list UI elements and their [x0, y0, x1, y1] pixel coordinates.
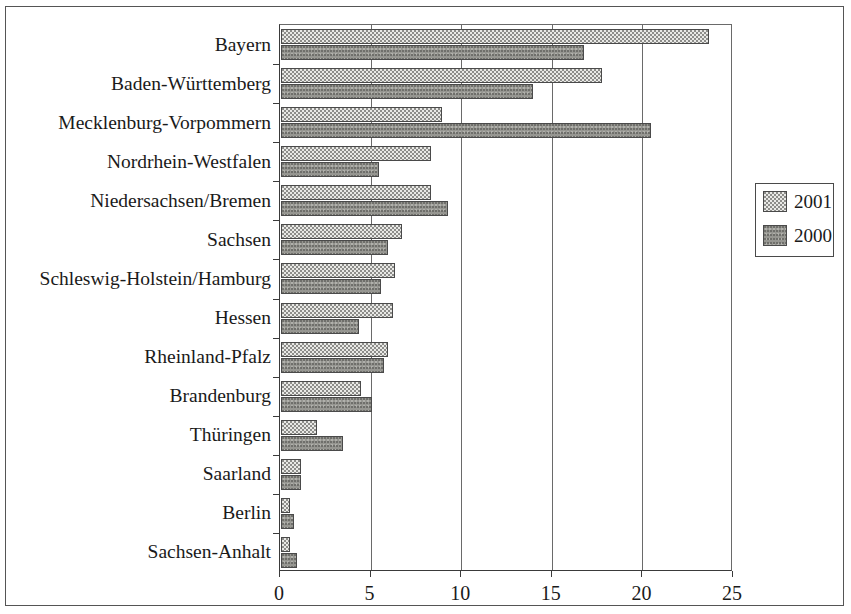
- bar-row: Thüringen: [280, 416, 731, 455]
- bar-2000: [281, 397, 372, 412]
- bar-2000: [281, 84, 533, 99]
- bar-2000: [281, 358, 384, 373]
- bar-row: Brandenburg: [280, 377, 731, 416]
- x-tick-label-25: 25: [702, 583, 762, 603]
- x-tick-label-5: 5: [340, 583, 400, 603]
- bar-row: Sachsen: [280, 220, 731, 259]
- x-tick-label-10: 10: [430, 583, 490, 603]
- legend-label-2000: 2000: [794, 226, 832, 245]
- y-tick: [273, 533, 280, 534]
- category-label: Nordrhein-Westfalen: [107, 152, 271, 172]
- bar-row: Bayern: [280, 25, 731, 64]
- bar-2001: [281, 420, 317, 435]
- bar-2001: [281, 68, 602, 83]
- y-tick: [273, 103, 280, 104]
- category-label: Brandenburg: [170, 386, 271, 406]
- legend-item-2001: 2001: [763, 188, 832, 214]
- bar-2001: [281, 381, 361, 396]
- bar-row: Berlin: [280, 494, 731, 533]
- category-label: Sachsen-Anhalt: [148, 542, 271, 562]
- y-tick: [273, 142, 280, 143]
- bar-2001: [281, 459, 301, 474]
- bar-2000: [281, 162, 379, 177]
- y-tick: [273, 338, 280, 339]
- bar-row: Schleswig-Holstein/Hamburg: [280, 259, 731, 298]
- chart-legend: 2001 2000: [755, 183, 834, 257]
- bar-2000: [281, 240, 388, 255]
- y-tick: [273, 377, 280, 378]
- y-tick: [273, 64, 280, 65]
- bar-2000: [281, 279, 381, 294]
- bar-2001: [281, 537, 290, 552]
- category-label: Mecklenburg-Vorpommern: [58, 113, 271, 133]
- category-label: Baden-Württemberg: [111, 74, 271, 94]
- bar-2001: [281, 224, 402, 239]
- x-tick-5: [370, 571, 371, 577]
- y-tick: [273, 494, 280, 495]
- bar-row: Rheinland-Pfalz: [280, 338, 731, 377]
- x-tick-25: [732, 571, 733, 577]
- bar-2000: [281, 123, 651, 138]
- category-label: Schleswig-Holstein/Hamburg: [40, 269, 271, 289]
- y-tick: [273, 455, 280, 456]
- bar-2000: [281, 319, 359, 334]
- legend-label-2001: 2001: [794, 192, 832, 211]
- bar-row: Niedersachsen/Bremen: [280, 181, 731, 220]
- legend-swatch-2000: [763, 225, 787, 246]
- category-label: Niedersachsen/Bremen: [90, 191, 271, 211]
- bar-row: Mecklenburg-Vorpommern: [280, 103, 731, 142]
- bar-2001: [281, 342, 388, 357]
- y-tick: [273, 416, 280, 417]
- bar-2000: [281, 201, 448, 216]
- category-label: Hessen: [215, 308, 271, 328]
- category-label: Sachsen: [207, 230, 271, 250]
- bar-row: Baden-Württemberg: [280, 64, 731, 103]
- bar-2001: [281, 29, 709, 44]
- x-tick-10: [460, 571, 461, 577]
- x-tick-20: [641, 571, 642, 577]
- x-tick-label-20: 20: [611, 583, 671, 603]
- bar-2000: [281, 436, 343, 451]
- x-tick-label-15: 15: [521, 583, 581, 603]
- bar-row: Saarland: [280, 455, 731, 494]
- legend-swatch-2001: [763, 191, 787, 212]
- bar-2001: [281, 185, 431, 200]
- bar-2001: [281, 107, 442, 122]
- category-label: Rheinland-Pfalz: [144, 347, 271, 367]
- chart-frame: BayernBaden-WürttembergMecklenburg-Vorpo…: [5, 6, 844, 606]
- bar-2001: [281, 263, 395, 278]
- category-label: Berlin: [222, 503, 271, 523]
- bar-row: Sachsen-Anhalt: [280, 533, 731, 572]
- category-label: Bayern: [215, 35, 271, 55]
- x-tick-0: [279, 571, 280, 577]
- y-tick: [273, 259, 280, 260]
- bar-row: Hessen: [280, 299, 731, 338]
- bar-2000: [281, 553, 297, 568]
- x-tick-15: [551, 571, 552, 577]
- bar-2000: [281, 45, 584, 60]
- bar-2000: [281, 514, 294, 529]
- bar-2001: [281, 303, 393, 318]
- bar-row: Nordrhein-Westfalen: [280, 142, 731, 181]
- y-tick: [273, 220, 280, 221]
- category-label: Saarland: [203, 464, 271, 484]
- plot-area: BayernBaden-WürttembergMecklenburg-Vorpo…: [279, 24, 732, 571]
- bar-2001: [281, 146, 431, 161]
- bar-2001: [281, 498, 290, 513]
- y-tick: [273, 181, 280, 182]
- y-tick: [273, 299, 280, 300]
- category-label: Thüringen: [190, 425, 271, 445]
- x-tick-label-0: 0: [249, 583, 309, 603]
- legend-item-2000: 2000: [763, 222, 832, 248]
- bar-2000: [281, 475, 301, 490]
